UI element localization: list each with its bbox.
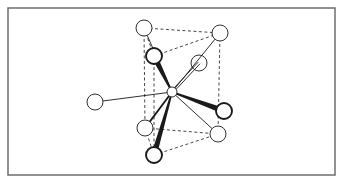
atom-cap-upper-right (191, 55, 207, 71)
prism-edge (145, 128, 218, 134)
prism-edge (154, 134, 218, 155)
atom-prism-top-right (212, 25, 228, 41)
structure-figure (0, 0, 341, 182)
atom-prism-bottom-right (210, 126, 226, 142)
atom-prism-top-left (136, 20, 152, 36)
prism-edge (144, 28, 220, 33)
bond-line (103, 92, 172, 101)
bond-line (172, 92, 212, 129)
bond-wedge (172, 91, 218, 110)
structure-diagram (0, 0, 341, 182)
prism-edge (144, 28, 145, 128)
atom-prism-bottom-left (137, 120, 153, 136)
atom-cap-right (216, 103, 232, 119)
atom-prism-bottom-front (146, 147, 162, 163)
atom-prism-top-front (146, 48, 162, 64)
atom-cap-left (87, 94, 103, 110)
central-atom (167, 87, 177, 97)
prism-edge (218, 33, 220, 134)
bond-wedge (154, 92, 173, 148)
